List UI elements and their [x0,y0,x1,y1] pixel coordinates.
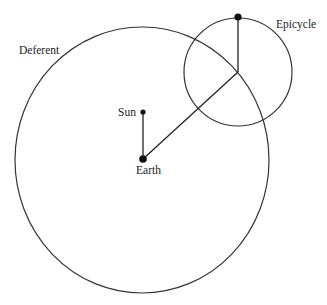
earth-point [139,155,147,163]
sun-label: Sun [118,106,136,118]
sun-point [140,109,145,114]
epicycle-label: Epicycle [276,18,316,31]
epicycle-diagram: Deferent Epicycle Sun Earth [0,0,327,305]
earth-epicycle-center-line [143,72,238,159]
deferent-label: Deferent [19,44,60,56]
earth-label: Earth [136,164,161,176]
planet-point [234,13,241,20]
